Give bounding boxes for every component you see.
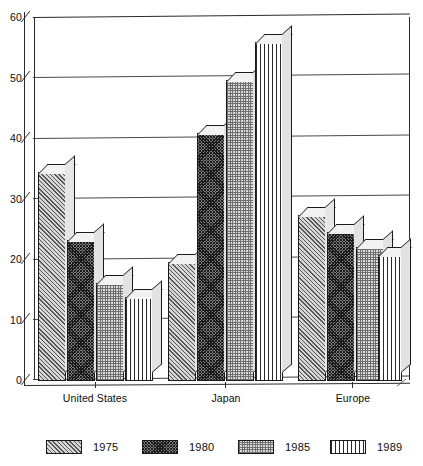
x-label-europe: Europe: [313, 392, 393, 404]
y-tick-label-0: 0: [0, 374, 22, 386]
y-tick-label-30: 30: [0, 193, 22, 205]
y-tick-label-40: 40: [0, 132, 22, 144]
bar-japan-1980: [197, 133, 225, 381]
bar-europe-1989: [378, 255, 402, 381]
legend-label-1980: 1980: [189, 441, 214, 453]
legend-swatch-1985: [238, 440, 274, 454]
chart-legend: 1975 1980 1985 1989: [0, 440, 423, 466]
bar-united-states-1975: [38, 172, 66, 381]
y-tick-label-20: 20: [0, 253, 22, 265]
legend-swatch-1980: [142, 440, 178, 454]
legend-label-1989: 1989: [377, 441, 402, 453]
bar-side-face: [401, 238, 411, 373]
y-tick-label-10: 10: [0, 314, 22, 326]
bar-united-states-1980: [67, 240, 95, 381]
bar-japan-1975: [168, 262, 196, 381]
wall-top-edge: [33, 13, 410, 18]
bar-united-states-1989: [125, 297, 153, 381]
bar-japan-1989: [255, 42, 283, 381]
x-tick-japan: [225, 382, 226, 388]
bar-side-face: [282, 25, 292, 373]
legend-item-1980[interactable]: 1980: [142, 440, 214, 454]
bar-europe-1975: [298, 215, 326, 381]
bar-side-face: [152, 280, 162, 373]
legend-label-1985: 1985: [285, 441, 310, 453]
legend-swatch-1975: [46, 440, 82, 454]
legend-item-1975[interactable]: 1975: [46, 440, 118, 454]
x-tick-united-states: [95, 382, 96, 388]
x-label-japan: Japan: [186, 392, 266, 404]
y-tick-label-60: 60: [0, 11, 22, 23]
x-label-united-states: United States: [55, 392, 135, 404]
chart-page: 60 50 40 30 20 10 0: [0, 0, 423, 466]
legend-swatch-1989: [330, 440, 366, 454]
bar-japan-1985: [226, 80, 254, 381]
legend-item-1989[interactable]: 1989: [330, 440, 402, 454]
bar-europe-1980: [327, 232, 355, 381]
bar-united-states-1985: [96, 283, 124, 381]
x-tick-europe: [352, 382, 353, 388]
y-tick-label-50: 50: [0, 72, 22, 84]
legend-label-1975: 1975: [93, 441, 118, 453]
gridline-50: [33, 73, 410, 78]
plot-area: 60 50 40 30 20 10 0: [0, 0, 423, 400]
legend-item-1985[interactable]: 1985: [238, 440, 310, 454]
